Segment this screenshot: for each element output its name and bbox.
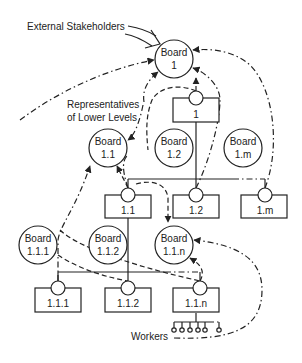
unit-1: 1 xyxy=(173,91,219,122)
external-stakeholders-label: External Stakeholders xyxy=(27,21,125,32)
unit-1-1: 1.1 xyxy=(105,188,151,218)
workers-label: Workers xyxy=(131,331,168,342)
svg-text:1.1.1: 1.1.1 xyxy=(27,246,50,257)
board-1-m: Board 1.m xyxy=(224,129,262,167)
svg-text:1.1: 1.1 xyxy=(121,205,135,216)
svg-text:1.1.n: 1.1.n xyxy=(163,246,185,257)
svg-text:1: 1 xyxy=(193,109,199,120)
svg-text:1.m: 1.m xyxy=(235,149,252,160)
circular-organization-diagram: External Stakeholders xyxy=(0,0,302,363)
board-1-1-n: Board 1.1.n xyxy=(155,226,193,264)
board-1: Board 1 xyxy=(155,40,193,78)
board-1-1-2: Board 1.1.2 xyxy=(89,226,127,264)
unit-1-m: 1.m xyxy=(241,188,287,218)
workers-icon xyxy=(172,322,221,332)
board-1-2: Board 1.2 xyxy=(155,129,193,167)
svg-text:Board: Board xyxy=(161,233,188,244)
unit-1-1-n: 1.1.n xyxy=(173,281,219,312)
unit-1-2: 1.2 xyxy=(173,188,219,218)
board-1-1: Board 1.1 xyxy=(89,129,127,167)
svg-text:1.1.2: 1.1.2 xyxy=(117,298,140,309)
svg-text:1.2: 1.2 xyxy=(189,205,203,216)
svg-text:Board: Board xyxy=(161,47,188,58)
unit-1-1-1: 1.1.1 xyxy=(35,281,81,312)
svg-text:1.2: 1.2 xyxy=(167,149,181,160)
svg-text:Board: Board xyxy=(25,233,52,244)
representatives-label-line1: Representatives xyxy=(67,99,139,110)
representatives-label-line2: of Lower Levels xyxy=(67,112,137,123)
svg-text:Board: Board xyxy=(230,136,257,147)
svg-text:1.1.1: 1.1.1 xyxy=(47,298,70,309)
svg-text:Board: Board xyxy=(161,136,188,147)
svg-text:1.1.2: 1.1.2 xyxy=(97,246,120,257)
svg-text:Board: Board xyxy=(95,136,122,147)
external-stakeholders-arrow-icon xyxy=(125,26,160,48)
board-1-1-1: Board 1.1.1 xyxy=(19,226,57,264)
svg-text:1.1.n: 1.1.n xyxy=(185,298,207,309)
svg-text:Board: Board xyxy=(95,233,122,244)
svg-text:1.m: 1.m xyxy=(257,205,274,216)
unit-1-1-2: 1.1.2 xyxy=(105,281,151,312)
svg-text:1.1: 1.1 xyxy=(101,149,115,160)
svg-text:1: 1 xyxy=(171,60,177,71)
